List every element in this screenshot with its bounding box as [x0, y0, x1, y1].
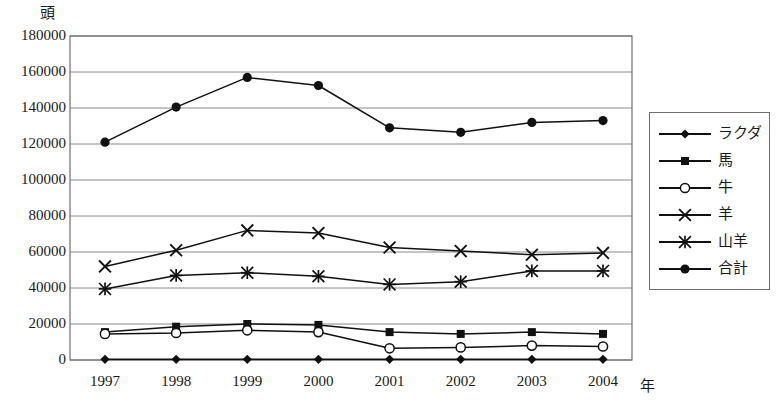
- legend-label: ラクダ: [718, 123, 762, 143]
- data-point-circle-open: [598, 342, 607, 351]
- series-5: [100, 73, 607, 147]
- data-point-circle-open: [243, 326, 252, 335]
- data-point-diamond-filled: [100, 355, 109, 364]
- legend-marker-icon: [656, 256, 714, 282]
- data-point-circle-open: [385, 344, 394, 353]
- data-point-square-filled: [528, 328, 536, 336]
- legend-marker-icon: [656, 229, 714, 255]
- legend-item-5[interactable]: 合計: [656, 256, 768, 282]
- legend-item-1[interactable]: 馬: [656, 148, 768, 174]
- legend-label: 馬: [718, 150, 733, 170]
- data-point-circle-open: [680, 183, 689, 192]
- data-point-circle-open: [172, 328, 181, 337]
- legend-marker-icon: [656, 148, 714, 174]
- legend-item-3[interactable]: 羊: [656, 202, 768, 228]
- data-point-circle-filled: [314, 81, 323, 90]
- data-point-square-filled: [386, 328, 394, 336]
- data-point-circle-filled: [598, 116, 607, 125]
- data-point-circle-open: [314, 328, 323, 337]
- data-point-circle-filled: [456, 128, 465, 137]
- legend-item-0[interactable]: ラクダ: [656, 121, 768, 147]
- data-point-square-filled: [457, 330, 465, 338]
- data-point-diamond-filled: [527, 355, 536, 364]
- data-point-circle-filled: [527, 118, 536, 127]
- data-point-circle-open: [100, 329, 109, 338]
- data-point-diamond-filled: [385, 355, 394, 364]
- legend-label: 羊: [718, 204, 733, 224]
- legend-item-4[interactable]: 山羊: [656, 229, 768, 255]
- data-point-square-filled: [599, 330, 607, 338]
- data-point-diamond-filled: [456, 355, 465, 364]
- series-0: [100, 355, 607, 364]
- legend-label: 山羊: [718, 231, 748, 251]
- series-4: [99, 265, 610, 296]
- data-point-diamond-filled: [172, 355, 181, 364]
- legend-label: 合計: [718, 258, 748, 278]
- data-point-diamond-filled: [598, 355, 607, 364]
- data-point-diamond-filled: [243, 355, 252, 364]
- legend-label: 牛: [718, 177, 733, 197]
- series-line: [105, 230, 603, 266]
- legend-marker-icon: [656, 121, 714, 147]
- legend-marker-icon: [656, 202, 714, 228]
- legend-marker-icon: [656, 175, 714, 201]
- line-chart: 頭 年 020000400006000080000100000120000140…: [0, 0, 781, 409]
- data-point-circle-filled: [385, 123, 394, 132]
- chart-legend: ラクダ馬牛羊山羊合計: [649, 112, 770, 290]
- data-point-circle-filled: [100, 138, 109, 147]
- data-point-circle-filled: [680, 264, 689, 273]
- legend-item-2[interactable]: 牛: [656, 175, 768, 201]
- data-point-diamond-filled: [680, 129, 689, 138]
- data-point-circle-filled: [172, 103, 181, 112]
- data-point-circle-open: [456, 343, 465, 352]
- data-point-circle-filled: [243, 73, 252, 82]
- plot-frame: [70, 36, 632, 360]
- data-point-circle-open: [527, 341, 536, 350]
- data-point-square-filled: [681, 157, 689, 165]
- data-point-diamond-filled: [314, 355, 323, 364]
